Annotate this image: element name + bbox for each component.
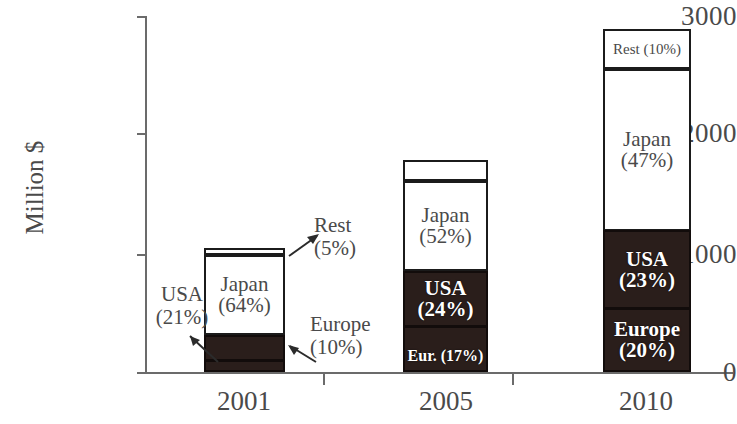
bar-2010-segment-europe[interactable]: Europe (20%) bbox=[603, 308, 691, 372]
callout-arrow-usa-2001 bbox=[180, 330, 220, 364]
y-tick-1000 bbox=[137, 254, 146, 256]
y-tick-2000 bbox=[137, 133, 146, 135]
x-tick-1 bbox=[323, 374, 325, 385]
stacked-bar-chart: Million $ 3000 2000 1000 0 2001 2005 201… bbox=[0, 0, 737, 424]
bar-2005-segment-rest[interactable] bbox=[403, 160, 488, 181]
callout-arrow-europe-2001 bbox=[284, 340, 318, 366]
bar-2001-label-japan: Japan (64%) bbox=[218, 274, 270, 316]
callout-arrow-rest-2001 bbox=[287, 232, 323, 258]
bar-2010-segment-japan[interactable]: Japan (47%) bbox=[603, 69, 691, 231]
y-tick-3000 bbox=[137, 16, 146, 18]
x-tick-label-2010: 2010 bbox=[586, 388, 706, 415]
callout-usa-2001: USA (21%) bbox=[147, 283, 217, 329]
bar-2010-label-rest: Rest (10%) bbox=[613, 42, 681, 57]
bar-2010-label-usa: USA (23%) bbox=[619, 249, 675, 291]
bar-2005-segment-japan[interactable]: Japan (52%) bbox=[403, 181, 488, 271]
x-tick-2 bbox=[512, 374, 514, 385]
bar-2010-segment-rest[interactable]: Rest (10%) bbox=[603, 29, 691, 69]
callout-europe-2001: Europe (10%) bbox=[310, 313, 420, 359]
bar-2005-label-usa: USA (24%) bbox=[418, 278, 474, 320]
y-tick-0 bbox=[137, 372, 146, 374]
y-axis-title: Million $ bbox=[22, 108, 47, 268]
bar-2001-segment-rest[interactable] bbox=[204, 248, 285, 255]
callout-rest-2001: Rest (5%) bbox=[314, 214, 400, 260]
bar-2010-label-japan: Japan (47%) bbox=[621, 129, 673, 171]
y-tick-label-3000: 3000 bbox=[633, 3, 737, 30]
x-tick-label-2001: 2001 bbox=[184, 388, 304, 415]
x-tick-label-2005: 2005 bbox=[386, 388, 506, 415]
bar-2010-segment-usa[interactable]: USA (23%) bbox=[603, 230, 691, 309]
bar-2010-label-europe: Europe (20%) bbox=[614, 319, 680, 361]
bar-group-2010[interactable]: Rest (10%) Japan (47%) USA (23%) Europe … bbox=[603, 29, 691, 372]
bar-2005-label-japan: Japan (52%) bbox=[419, 205, 471, 247]
